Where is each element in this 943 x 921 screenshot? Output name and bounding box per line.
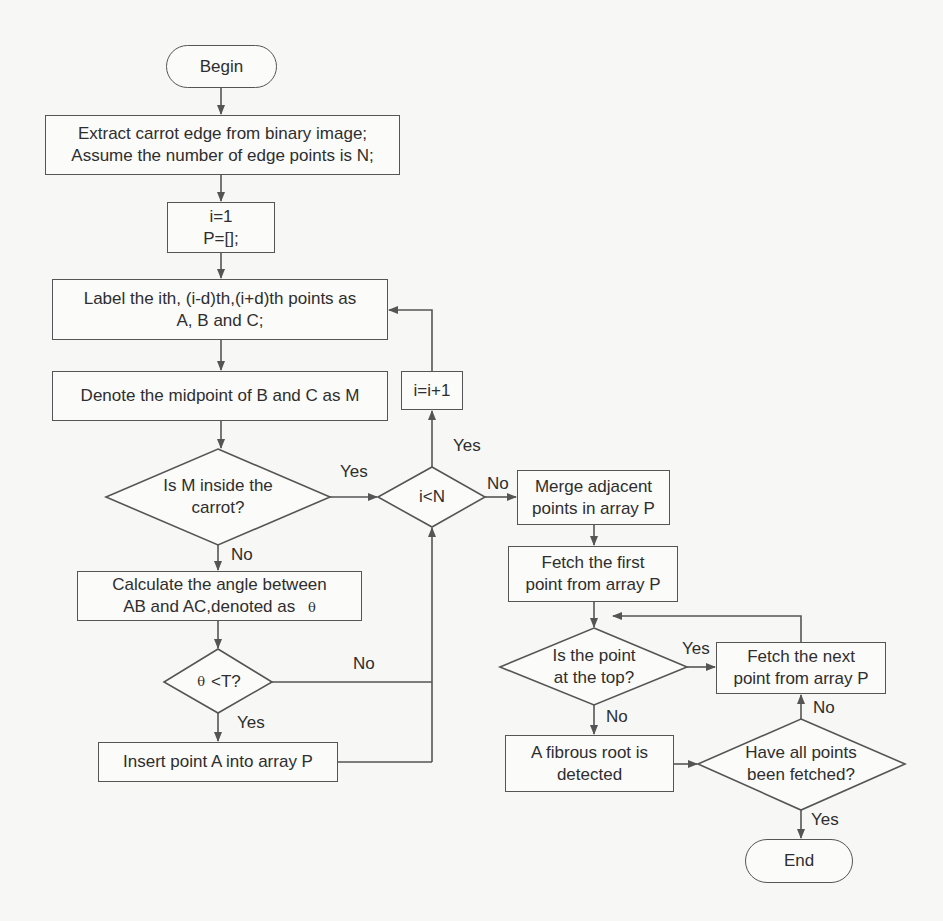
inside-decision: Is M inside the carrot? [126, 473, 310, 521]
all-fetched-decision: Have all points been fetched? [728, 741, 874, 787]
calc-angle-line-2: AB and AC,denoted as [123, 597, 295, 616]
edge-label-angle-no: No [353, 654, 375, 674]
end-terminal: End [745, 839, 853, 883]
increment-step: i=i+1 [401, 371, 463, 410]
begin-terminal: Begin [166, 45, 277, 88]
loop-decision: i<N [392, 486, 472, 508]
edge-label-all-fetched-no: No [813, 698, 835, 718]
theta-symbol: θ [197, 671, 205, 693]
increment-label: i=i+1 [414, 380, 451, 402]
angle-decision: θ <T? [174, 671, 264, 693]
top-decision-line-1: Is the point [552, 645, 635, 667]
fetch-first-line-2: point from array P [525, 574, 660, 596]
top-decision: Is the point at the top? [530, 644, 658, 690]
edge-label-top-yes: Yes [682, 639, 710, 659]
calc-angle-step: Calculate the angle between AB and AC,de… [77, 571, 362, 621]
all-fetched-line-1: Have all points [745, 742, 857, 764]
fetch-next-line-1: Fetch the next [747, 646, 855, 668]
calc-angle-line-1: Calculate the angle between [112, 574, 327, 596]
merge-line-1: Merge adjacent [535, 476, 652, 498]
edge-label-inside-no: No [231, 545, 253, 565]
init-step: i=1 P=[]; [167, 202, 275, 253]
edge-label-loop-no: No [487, 474, 509, 494]
insert-point-step: Insert point A into array P [98, 742, 338, 782]
label-points-step: Label the ith, (i-d)th,(i+d)th points as… [52, 279, 388, 340]
midpoint-step: Denote the midpoint of B and C as M [52, 371, 388, 421]
edge-label-angle-yes: Yes [237, 713, 265, 733]
edge-label-all-fetched-yes: Yes [811, 810, 839, 830]
extract-line-1: Extract carrot edge from binary image; [78, 123, 367, 145]
extract-line-2: Assume the number of edge points is N; [71, 145, 373, 167]
fibrous-root-step: A fibrous root is detected [505, 735, 674, 792]
init-line-2: P=[]; [203, 228, 238, 250]
edge-label-inside-yes: Yes [340, 462, 368, 482]
label-points-line-1: Label the ith, (i-d)th,(i+d)th points as [84, 288, 357, 310]
label-points-line-2: A, B and C; [177, 310, 264, 332]
fetch-first-line-1: Fetch the first [542, 552, 645, 574]
theta-symbol: θ [308, 600, 316, 615]
extract-edge-step: Extract carrot edge from binary image; A… [45, 115, 400, 175]
flowchart-canvas: Begin Extract carrot edge from binary im… [0, 0, 943, 921]
init-line-1: i=1 [209, 206, 232, 228]
midpoint-label: Denote the midpoint of B and C as M [81, 385, 360, 407]
fibrous-root-line-1: A fibrous root is [531, 742, 648, 764]
merge-step: Merge adjacent points in array P [517, 470, 670, 525]
fibrous-root-line-2: detected [557, 764, 622, 786]
fetch-next-step: Fetch the next point from array P [716, 642, 886, 694]
merge-line-2: points in array P [532, 498, 655, 520]
end-label: End [784, 850, 814, 872]
insert-point-label: Insert point A into array P [123, 751, 313, 773]
edge-label-top-no: No [606, 707, 628, 727]
angle-decision-label: <T? [211, 671, 241, 693]
begin-label: Begin [200, 56, 243, 78]
edge-label-loop-yes: Yes [453, 436, 481, 456]
inside-decision-line-2: carrot? [192, 497, 245, 519]
loop-decision-label: i<N [419, 486, 445, 508]
inside-decision-line-1: Is M inside the [163, 475, 273, 497]
fetch-next-line-2: point from array P [733, 668, 868, 690]
all-fetched-line-2: been fetched? [747, 764, 855, 786]
top-decision-line-2: at the top? [554, 667, 634, 689]
calc-angle-line-2-wrap: AB and AC,denoted as θ [123, 596, 316, 619]
fetch-first-step: Fetch the first point from array P [508, 546, 678, 602]
